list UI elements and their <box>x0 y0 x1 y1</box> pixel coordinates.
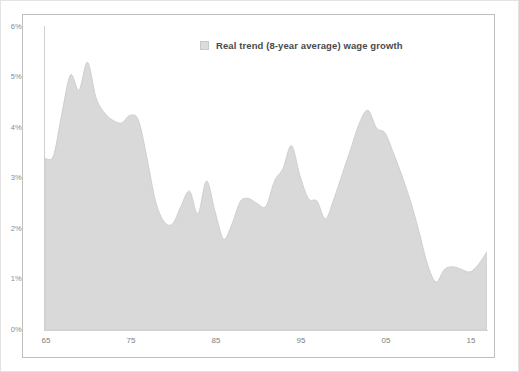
y-tick-2: 2% <box>0 224 22 233</box>
plot-area <box>45 27 487 330</box>
x-tick-15: 15 <box>456 336 486 345</box>
chart-legend: Real trend (8-year average) wage growth <box>200 40 403 51</box>
series-area-real-wage-growth <box>45 62 487 330</box>
chart-figure: 6% 5% 4% 3% 2% 1% 0% 65 75 85 95 05 15 R… <box>0 0 519 372</box>
legend-label: Real trend (8-year average) wage growth <box>216 40 403 51</box>
y-tick-3: 3% <box>0 173 22 182</box>
y-tick-1: 1% <box>0 274 22 283</box>
x-tick-65: 65 <box>31 336 61 345</box>
legend-swatch-icon <box>200 41 209 50</box>
area-chart-svg <box>45 27 487 330</box>
x-tick-85: 85 <box>201 336 231 345</box>
x-tick-75: 75 <box>116 336 146 345</box>
y-tick-6: 6% <box>0 22 22 31</box>
y-tick-0: 0% <box>0 325 22 334</box>
x-tick-05: 05 <box>371 336 401 345</box>
x-tick-95: 95 <box>286 336 316 345</box>
x-axis-line <box>44 330 488 331</box>
y-tick-4: 4% <box>0 123 22 132</box>
y-tick-5: 5% <box>0 72 22 81</box>
